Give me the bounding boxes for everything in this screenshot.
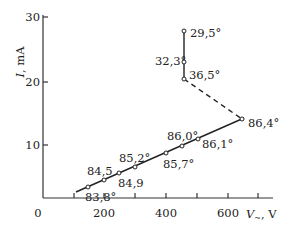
label-p2: 84,5 [87,164,113,178]
label-p1: 83,8° [85,190,116,204]
label-u2: 32,3° [155,54,186,68]
label-p4: 85,2° [119,151,150,165]
transition-dashed-line [184,79,242,119]
label-u1: 36,5° [189,68,220,82]
label-u3: 29,5° [190,26,221,40]
x-tick-200: 200 [93,206,115,220]
x-tick-600: 600 [217,206,239,220]
label-p7: 86,1° [202,137,233,151]
label-p3: 84,9 [118,176,144,190]
y-tick-10: 10 [25,138,40,152]
lower-branch-line [76,118,244,192]
label-p6: 86,0° [167,129,198,143]
y-axis-title: I, mA [13,46,27,79]
y-tick-30: 30 [25,10,40,24]
y-tick-20: 20 [25,75,40,89]
axes [43,15,273,198]
x-tick-400: 400 [155,206,177,220]
origin-label: 0 [34,206,41,220]
chart: 30 20 10 0 200 400 600 I, mA V~, V 83,8°… [0,0,289,235]
label-p8: 86,4° [248,116,279,130]
x-axis-title: V~, V [246,207,277,223]
label-p5: 85,7° [163,157,194,171]
